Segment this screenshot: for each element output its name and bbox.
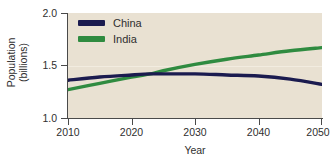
x-tick-mark-2020 [132, 119, 133, 125]
x-tick-label-2020: 2020 [107, 127, 157, 138]
x-tick-mark-2050 [321, 119, 322, 125]
x-tick-mark-2010 [68, 119, 69, 125]
x-tick-label-2010: 2010 [43, 127, 93, 138]
y-tick-label-1.5: 1.5 [17, 60, 57, 70]
x-tick-label-2030: 2030 [170, 127, 220, 138]
y-axis-line [67, 13, 68, 119]
legend-label-india: India [113, 33, 137, 45]
x-tick-mark-2030 [195, 119, 196, 125]
legend-item-india[interactable]: India [78, 31, 142, 47]
x-tick-label-2050: 2050 [293, 127, 332, 138]
x-axis-title: Year [0, 144, 332, 156]
x-tick-mark-2040 [259, 119, 260, 125]
legend-item-china[interactable]: China [78, 15, 142, 31]
india-line [68, 48, 322, 90]
population-projection-chart: Population (billions) 2.0 1.5 1.0 China … [0, 0, 332, 167]
legend-swatch-india [78, 36, 105, 42]
x-tick-label-2040: 2040 [234, 127, 284, 138]
y-tick-label-1.0: 1.0 [17, 113, 57, 123]
legend-swatch-china [78, 20, 105, 26]
legend-label-china: China [113, 17, 142, 29]
x-axis-title-text: Year [184, 144, 205, 156]
y-tick-label-2.0: 2.0 [17, 8, 57, 18]
legend: China India [78, 15, 142, 47]
plot-area: China India [68, 13, 322, 118]
y-axis-title-line1: Population [6, 38, 18, 88]
clipped-caption-row [8, 163, 324, 167]
